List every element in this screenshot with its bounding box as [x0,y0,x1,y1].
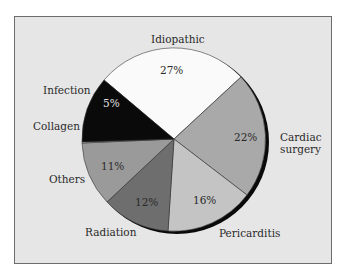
value-pericarditis: 16% [193,194,216,206]
value-cardiac-surgery: 22% [234,131,257,143]
label-others: Others [49,173,85,185]
label-cardiac-line2: surgery [280,143,321,155]
value-others: 11% [101,160,124,172]
value-idiopathic: 27% [160,64,183,76]
label-infection: Infection [43,84,91,96]
value-radiation: 12% [135,196,158,208]
label-cardiac-line1: Cardiac [280,131,322,143]
label-idiopathic: Idiopathic [151,33,205,45]
label-radiation: Radiation [85,226,136,238]
value-infection: 5% [103,97,120,109]
label-collagen: Collagen [33,120,80,132]
label-pericarditis: Pericarditis [219,227,280,239]
